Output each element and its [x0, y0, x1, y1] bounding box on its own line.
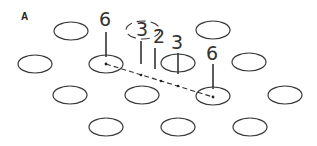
label-six-left: 6: [99, 8, 111, 30]
label-three: 3: [171, 31, 183, 53]
lattice-site: [53, 86, 87, 104]
path-point: [177, 85, 180, 88]
path-point-start: [105, 63, 108, 66]
lattice-site: [89, 118, 123, 136]
lattice-site: [268, 86, 302, 104]
lattice-site: [232, 53, 266, 71]
panel-label: A: [21, 11, 28, 22]
lattice-site: [54, 22, 88, 40]
label-two: 2: [153, 25, 165, 47]
lattice-site: [161, 118, 195, 136]
lattice-diagram: A 6 3 2 3 6: [0, 0, 317, 146]
lattice-site: [125, 86, 159, 104]
label-six-right: 6: [206, 42, 218, 64]
lattice-site: [196, 21, 230, 39]
path-point: [160, 80, 163, 83]
path-point: [140, 74, 143, 77]
lattice-site: [18, 55, 52, 73]
path-point-end: [212, 96, 215, 99]
lattice-site: [233, 118, 267, 136]
label-three-bracketed: 3: [136, 18, 148, 40]
